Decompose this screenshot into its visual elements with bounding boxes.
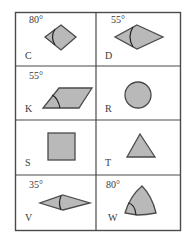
cell-s: S bbox=[25, 133, 75, 168]
table-border bbox=[16, 13, 181, 231]
shape-letter: S bbox=[25, 157, 31, 168]
rhombus-shape bbox=[45, 25, 76, 50]
shape-letter: C bbox=[25, 50, 32, 61]
shape-letter: T bbox=[105, 157, 111, 168]
square-shape bbox=[48, 133, 75, 160]
cell-k: 55° K bbox=[25, 70, 92, 114]
shape-letter: D bbox=[105, 50, 112, 61]
cell-d: 55° D bbox=[105, 14, 163, 61]
circle-shape bbox=[125, 82, 151, 108]
rhombus-shape bbox=[40, 195, 90, 210]
cell-t: T bbox=[105, 134, 155, 168]
angle-label: 80° bbox=[29, 14, 43, 25]
parallelogram-shape bbox=[43, 88, 92, 108]
shape-letter: W bbox=[108, 212, 118, 223]
cell-r: R bbox=[105, 82, 151, 114]
cell-w: 80° W bbox=[106, 179, 156, 223]
angle-label: 55° bbox=[29, 70, 43, 81]
curved-kite-shape bbox=[125, 186, 156, 215]
cell-c: 80° C bbox=[25, 14, 76, 61]
rhombus-shape bbox=[115, 25, 163, 49]
shape-letter: K bbox=[25, 103, 33, 114]
shapes-table: 80° C 55° D 55° K R S T 35° V 8 bbox=[0, 0, 188, 242]
angle-label: 55° bbox=[111, 14, 125, 25]
cell-v: 35° V bbox=[25, 179, 90, 223]
shape-letter: R bbox=[105, 103, 112, 114]
angle-label: 35° bbox=[29, 179, 43, 190]
shape-letter: V bbox=[25, 212, 33, 223]
triangle-shape bbox=[127, 134, 155, 157]
angle-label: 80° bbox=[106, 179, 120, 190]
